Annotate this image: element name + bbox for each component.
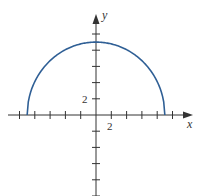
y-axis-label: y	[101, 8, 108, 22]
y-axis-arrow-icon	[93, 14, 100, 24]
y-tick-label: 2	[82, 93, 88, 105]
semicircle-chart: x y 2 2	[0, 0, 199, 196]
x-axis-label: x	[186, 117, 193, 131]
x-tick-label: 2	[107, 120, 113, 132]
